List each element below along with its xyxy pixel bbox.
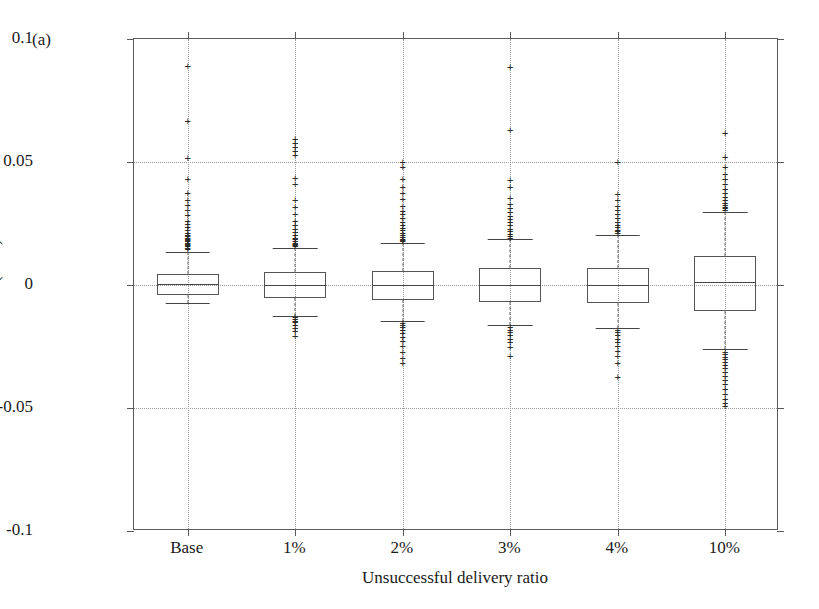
y-axis-tick (777, 162, 784, 163)
outlier-marker: + (615, 371, 621, 382)
outlier-marker: + (722, 162, 728, 173)
outlier-marker: + (400, 157, 406, 168)
y-axis-tick (777, 531, 784, 532)
outlier-marker: + (722, 401, 728, 412)
gridline-horizontal (134, 285, 777, 286)
x-axis-tick (403, 32, 404, 39)
x-axis-tick (618, 32, 619, 39)
cap-lower (165, 303, 210, 304)
y-axis-tick (777, 285, 784, 286)
outlier-marker: + (185, 187, 191, 198)
x-axis-tick (510, 529, 511, 536)
x-axis-tick-label: 2% (342, 538, 462, 558)
x-axis-tick-label: 10% (664, 538, 784, 558)
outlier-marker: + (507, 350, 513, 361)
y-axis-tick-label: 0.1 (0, 28, 33, 48)
y-axis-tick-label: -0.05 (0, 397, 33, 417)
y-axis-tick-label: 0 (0, 274, 33, 294)
whisker-lower (725, 311, 726, 350)
box-iqr (694, 256, 756, 311)
outlier-marker: + (615, 189, 621, 200)
x-axis-tick-label: 1% (234, 538, 354, 558)
y-axis-tick (127, 285, 134, 286)
y-axis-tick (777, 39, 784, 40)
median-line (157, 284, 219, 285)
median-line (694, 282, 756, 283)
x-axis-tick (510, 32, 511, 39)
outlier-marker: + (185, 173, 191, 184)
x-axis-tick (295, 529, 296, 536)
outlier-marker: + (615, 358, 621, 369)
whisker-upper (510, 239, 511, 268)
outlier-marker: + (292, 134, 298, 145)
y-axis-tick (777, 408, 784, 409)
outlier-marker: + (507, 175, 513, 186)
median-line (264, 285, 326, 286)
outlier-marker: + (722, 151, 728, 162)
y-axis-tick-label: 0.05 (0, 151, 33, 171)
y-axis-tick (127, 408, 134, 409)
x-axis-tick-label: Base (127, 538, 247, 558)
x-axis-tick (403, 529, 404, 536)
outlier-marker: + (185, 153, 191, 164)
x-axis-tick (295, 32, 296, 39)
y-axis-tick (127, 531, 134, 532)
x-axis-tick (618, 529, 619, 536)
plot-area: ++++++++++++++++++++++++++++++++++++++++… (133, 38, 778, 530)
median-line (587, 285, 649, 286)
whisker-upper (725, 212, 726, 256)
x-axis-tick (725, 529, 726, 536)
y-axis-tick (127, 39, 134, 40)
outlier-marker: + (507, 124, 513, 135)
outlier-marker: + (185, 115, 191, 126)
gridline-horizontal (134, 408, 777, 409)
x-axis-tick-label: 3% (449, 538, 569, 558)
outlier-marker: + (400, 173, 406, 184)
outlier-marker: + (400, 358, 406, 369)
outlier-marker: + (615, 157, 621, 168)
outlier-marker: + (292, 195, 298, 206)
whisker-upper (187, 252, 188, 274)
outlier-marker: + (507, 193, 513, 204)
gridline-horizontal (134, 162, 777, 163)
whisker-lower (187, 295, 188, 303)
x-axis-tick (188, 32, 189, 39)
x-axis-tick-label: 4% (557, 538, 677, 558)
boxplot-figure: (a) ++++++++++++++++++++++++++++++++++++… (0, 0, 819, 609)
x-axis-tick (188, 529, 189, 536)
outlier-marker: + (292, 331, 298, 342)
y-axis-tick-label: -0.1 (0, 520, 33, 540)
x-axis-label: Unsuccessful delivery ratio (362, 568, 548, 588)
y-axis-tick (127, 162, 134, 163)
outlier-marker: + (185, 60, 191, 71)
whisker-upper (617, 235, 618, 269)
x-axis-tick (725, 32, 726, 39)
outlier-marker: + (292, 172, 298, 183)
outlier-marker: + (722, 127, 728, 138)
outlier-marker: + (507, 61, 513, 72)
panel-label: (a) (32, 30, 51, 50)
whisker-upper (402, 243, 403, 271)
median-line (479, 285, 541, 286)
median-line (372, 285, 434, 286)
